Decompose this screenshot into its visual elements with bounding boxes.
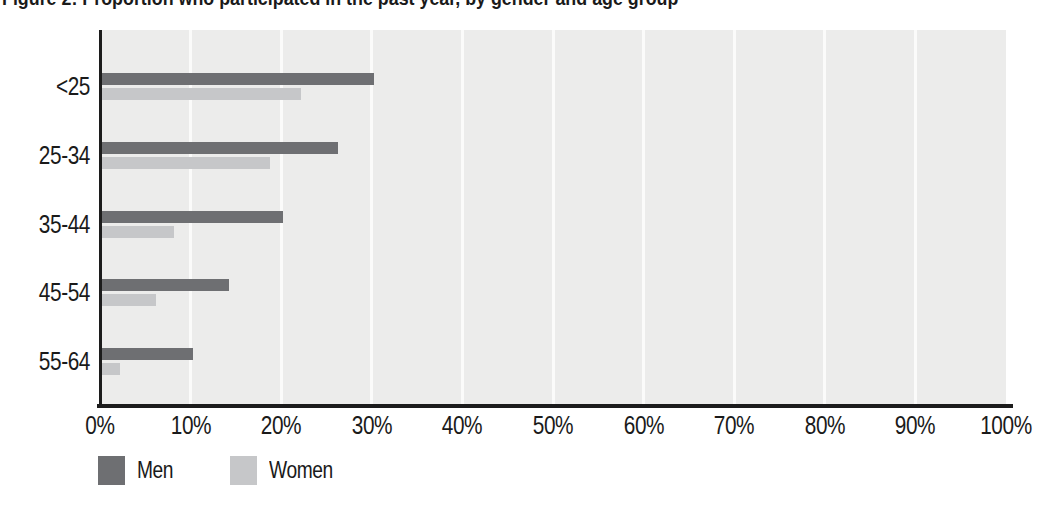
y-axis-label: <25 xyxy=(24,71,90,101)
x-axis-label: 90% xyxy=(879,410,951,440)
x-axis-label: 60% xyxy=(608,410,680,440)
gridline xyxy=(552,30,555,405)
x-axis-line xyxy=(97,404,1013,408)
gridline xyxy=(823,30,826,405)
x-axis-label: 100% xyxy=(970,410,1042,440)
women-bar xyxy=(102,88,301,100)
gridline xyxy=(733,30,736,405)
men-bar xyxy=(102,348,193,360)
x-axis-label: 50% xyxy=(517,410,589,440)
bar-chart: <2525-3435-4445-5455-640%10%20%30%40%50%… xyxy=(0,0,1049,507)
men-bar xyxy=(102,279,229,291)
gridline xyxy=(461,30,464,405)
x-axis-label: 80% xyxy=(789,410,861,440)
y-axis-label: 55-64 xyxy=(24,346,90,376)
y-axis-label: 25-34 xyxy=(24,140,90,170)
women-series-swatch xyxy=(230,456,257,485)
x-axis-label: 40% xyxy=(426,410,498,440)
men-series-swatch xyxy=(98,456,125,485)
men-bar xyxy=(102,73,374,85)
y-axis-label: 35-44 xyxy=(24,209,90,239)
gridline xyxy=(370,30,373,405)
y-axis-label: 45-54 xyxy=(24,277,90,307)
y-axis-line xyxy=(99,30,102,408)
men-bar xyxy=(102,211,283,223)
figure: Figure 2: Proportion who participated in… xyxy=(0,0,1049,507)
men-bar xyxy=(102,142,338,154)
x-axis-label: 10% xyxy=(155,410,227,440)
x-axis-label: 70% xyxy=(698,410,770,440)
legend-label-women: Women xyxy=(269,456,333,484)
legend-item-women: Women xyxy=(230,455,349,485)
women-bar xyxy=(102,226,174,238)
legend-label-men: Men xyxy=(137,456,173,484)
x-axis-label: 30% xyxy=(336,410,408,440)
x-axis-label: 20% xyxy=(245,410,317,440)
women-bar xyxy=(102,157,270,169)
gridline xyxy=(642,30,645,405)
legend-item-men: Men xyxy=(98,455,182,485)
women-bar xyxy=(102,294,156,306)
women-bar xyxy=(102,363,120,375)
gridline xyxy=(914,30,917,405)
x-axis-label: 0% xyxy=(64,410,136,440)
